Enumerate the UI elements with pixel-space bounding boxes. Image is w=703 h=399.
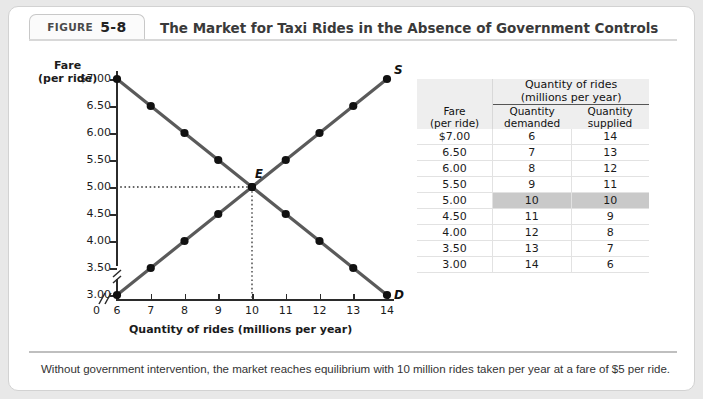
x-tick-mark <box>387 294 389 300</box>
y-tick-label: 4.50 <box>87 207 112 220</box>
table-row: 4.50119 <box>417 209 649 225</box>
cell-fare: 4.00 <box>417 225 493 241</box>
cell-quantity-demanded: 10 <box>493 193 572 209</box>
cell-quantity-demanded: 13 <box>493 241 572 257</box>
demand-data-point <box>248 183 256 191</box>
table-row: 6.50713 <box>417 145 649 161</box>
cell-fare: 4.50 <box>417 209 493 225</box>
x-tick-mark <box>218 294 220 300</box>
cell-quantity-demanded: 6 <box>493 129 572 145</box>
figure-caption: Without government intervention, the mar… <box>41 363 670 375</box>
cell-fare: 3.00 <box>417 257 493 273</box>
y-tick: 5.00 <box>31 180 111 193</box>
column-header-fare: Fare (per ride) <box>417 79 493 129</box>
supply-demand-chart: Fare (per ride) $7.006.506.005.505.004.5… <box>31 51 401 341</box>
figure-card: FIGURE 5-8 The Market for Taxi Rides in … <box>8 6 695 391</box>
y-tick-label: 5.00 <box>87 180 112 193</box>
quantity-group-line1: Quantity of rides <box>493 79 649 92</box>
x-tick-mark <box>117 294 119 300</box>
cell-quantity-supplied: 7 <box>571 241 649 257</box>
figure-word-label: FIGURE <box>47 21 93 33</box>
table-row: 5.50911 <box>417 177 649 193</box>
y-tick-label: 6.00 <box>87 126 112 139</box>
fare-header-line2: (per ride) <box>417 117 492 129</box>
column-header-quantity-group: Quantity of rides (millions per year) <box>493 79 649 105</box>
supply-demand-table: Fare (per ride) Quantity of rides (milli… <box>417 79 649 273</box>
table-row: 3.00146 <box>417 257 649 273</box>
y-tick: 6.00 <box>31 126 111 139</box>
cell-quantity-supplied: 14 <box>571 129 649 145</box>
cell-quantity-demanded: 11 <box>493 209 572 225</box>
y-tick-label: 6.50 <box>87 99 112 112</box>
cell-quantity-supplied: 10 <box>571 193 649 209</box>
x-tick-mark <box>320 294 322 300</box>
y-tick-mark <box>110 295 117 297</box>
y-tick-mark <box>110 241 117 243</box>
x-tick-mark <box>252 294 254 300</box>
y-tick: 3.50 <box>31 261 111 274</box>
cell-quantity-demanded: 9 <box>493 177 572 193</box>
cell-fare: 6.50 <box>417 145 493 161</box>
y-tick-mark <box>110 79 117 81</box>
table-row: 6.00812 <box>417 161 649 177</box>
demand-data-point <box>349 264 357 272</box>
demand-data-point <box>282 210 290 218</box>
x-tick-label: 6 <box>106 304 128 317</box>
y-tick: 3.00 <box>31 288 111 301</box>
y-tick-label: $7.00 <box>80 72 112 85</box>
supply-curve-label: S <box>394 63 403 77</box>
supply-data-point <box>315 129 323 137</box>
cell-quantity-supplied: 13 <box>571 145 649 161</box>
x-tick-label: 10 <box>241 304 263 317</box>
cell-quantity-supplied: 6 <box>571 257 649 273</box>
table-header-row-group: Fare (per ride) Quantity of rides (milli… <box>417 79 649 105</box>
demand-data-point <box>315 237 323 245</box>
cell-fare: 5.00 <box>417 193 493 209</box>
y-tick-label: 3.00 <box>87 288 112 301</box>
x-tick-label: 9 <box>207 304 229 317</box>
y-tick: 5.50 <box>31 153 111 166</box>
x-tick-mark <box>151 294 153 300</box>
equilibrium-point-label: E <box>255 167 263 181</box>
x-tick-label: 14 <box>376 304 398 317</box>
demand-header-line2: demanded <box>493 117 571 129</box>
demand-header-line1: Quantity <box>493 105 571 117</box>
y-tick: $7.00 <box>31 72 111 85</box>
demand-curve-label: D <box>394 288 404 302</box>
y-tick-label: 5.50 <box>87 153 112 166</box>
y-tick-label: 3.50 <box>87 261 112 274</box>
cell-quantity-supplied: 12 <box>571 161 649 177</box>
y-tick: 6.50 <box>31 99 111 112</box>
fare-header-line1: Fare <box>417 105 492 117</box>
y-tick-label: 4.00 <box>87 234 112 247</box>
demand-data-point <box>147 102 155 110</box>
cell-quantity-demanded: 14 <box>493 257 572 273</box>
supply-header-line1: Quantity <box>571 105 649 117</box>
cell-quantity-supplied: 8 <box>571 225 649 241</box>
x-tick-label: 11 <box>275 304 297 317</box>
supply-data-point <box>383 75 391 83</box>
supply-data-point <box>147 264 155 272</box>
cell-fare: 6.00 <box>417 161 493 177</box>
data-table: Fare (per ride) Quantity of rides (milli… <box>417 79 649 273</box>
supply-data-point <box>349 102 357 110</box>
table-header: Fare (per ride) Quantity of rides (milli… <box>417 79 649 129</box>
cell-quantity-supplied: 11 <box>571 177 649 193</box>
demand-data-point <box>180 129 188 137</box>
y-axis-line <box>116 71 118 266</box>
demand-curve-line <box>117 79 387 295</box>
x-tick-label: 8 <box>174 304 196 317</box>
supply-data-point <box>180 237 188 245</box>
cell-quantity-demanded: 8 <box>493 161 572 177</box>
column-header-quantity-demanded: Quantity demanded <box>493 105 572 130</box>
figure-header: FIGURE 5-8 The Market for Taxi Rides in … <box>9 7 696 45</box>
table-row: 4.00128 <box>417 225 649 241</box>
x-tick-mark <box>353 294 355 300</box>
supply-data-point <box>282 156 290 164</box>
y-tick-mark <box>110 214 117 216</box>
y-tick-mark <box>110 187 117 189</box>
figure-number-tab: FIGURE 5-8 <box>29 14 145 39</box>
x-tick-label: 13 <box>342 304 364 317</box>
cell-fare: $7.00 <box>417 129 493 145</box>
y-tick-mark <box>110 268 117 270</box>
